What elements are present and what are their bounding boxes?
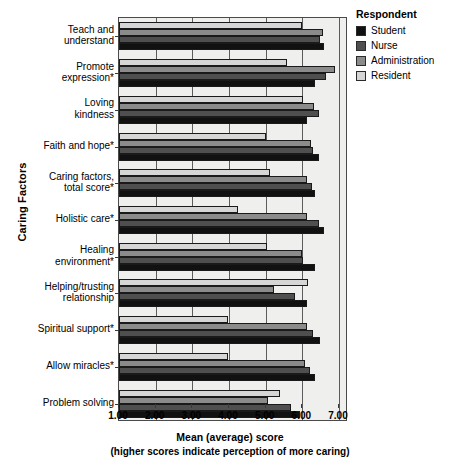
bar-resident [119, 316, 228, 323]
bar-administration [119, 176, 307, 183]
y-axis-category-label-line: Helping/trusting [22, 281, 114, 293]
y-axis-category-label-line: Holistic care* [22, 213, 114, 225]
y-axis-tick [115, 147, 119, 148]
plot-area [118, 17, 347, 421]
y-axis-category-label-line: total score* [22, 182, 114, 194]
bar-student [119, 190, 315, 197]
y-axis-tick [115, 183, 119, 184]
y-axis-category-label: Teach andunderstand [22, 24, 114, 47]
legend-swatch-resident [356, 71, 366, 81]
bar-student [119, 43, 324, 50]
y-axis-category-label: Healingenvironment* [22, 244, 114, 267]
y-axis-tick [115, 73, 119, 74]
x-axis-tick-label: 3.00 [171, 410, 211, 421]
bar-administration [119, 66, 335, 73]
y-axis-tick [115, 220, 119, 221]
y-axis-category-label: Lovingkindness [22, 97, 114, 120]
gridline [339, 18, 340, 420]
y-axis-tick [115, 110, 119, 111]
y-axis-category-label: Caring factors,total score* [22, 171, 114, 194]
y-axis-category-label-line: relationship [22, 292, 114, 304]
y-axis-category-labels: Teach andunderstandPromoteexpression*Lov… [22, 17, 114, 421]
legend-item: Resident [356, 70, 448, 81]
y-axis-tick [115, 36, 119, 37]
x-axis-tick [118, 404, 119, 408]
y-axis-tick [115, 293, 119, 294]
bar-administration [119, 29, 323, 36]
bar-nurse [119, 367, 310, 374]
legend-label: Resident [371, 70, 410, 81]
bar-administration [119, 103, 314, 110]
y-axis-category-label: Holistic care* [22, 213, 114, 225]
bar-nurse [119, 73, 326, 80]
x-axis-tick-label: 7.00 [318, 410, 358, 421]
bar-administration [119, 140, 311, 147]
legend-item: Administration [356, 55, 448, 66]
bar-resident [119, 169, 270, 176]
x-axis-tick [228, 404, 229, 408]
bar-resident [119, 206, 238, 213]
bar-student [119, 337, 320, 344]
legend-items: StudentNurseAdministrationResident [356, 25, 448, 81]
bar-student [119, 117, 307, 124]
bar-nurse [119, 330, 313, 337]
legend-swatch-nurse [356, 41, 366, 51]
bar-nurse [119, 110, 319, 117]
x-axis-tick-label: 6.00 [281, 410, 321, 421]
y-axis-category-label-line: expression* [22, 72, 114, 84]
x-axis-tick-label: 5.00 [245, 410, 285, 421]
y-axis-category-label-line: Caring factors, [22, 171, 114, 183]
bar-nurse [119, 183, 312, 190]
bar-administration [119, 323, 307, 330]
bar-nurse [119, 257, 303, 264]
x-axis-subtitle: (higher scores indicate perception of mo… [40, 446, 420, 457]
bar-resident [119, 133, 266, 140]
bar-resident [119, 59, 287, 66]
y-axis-category-label-line: kindness [22, 109, 114, 121]
bar-resident [119, 353, 228, 360]
bar-administration [119, 250, 302, 257]
y-axis-category-label: Helping/trustingrelationship [22, 281, 114, 304]
x-axis-tick-label: 4.00 [208, 410, 248, 421]
y-axis-category-label-line: Faith and hope* [22, 140, 114, 152]
bar-nurse [119, 293, 295, 300]
bar-student [119, 154, 319, 161]
bar-resident [119, 22, 302, 29]
y-axis-category-label-line: understand [22, 35, 114, 47]
y-axis-category-label-line: Loving [22, 97, 114, 109]
bar-resident [119, 279, 308, 286]
bar-nurse [119, 36, 320, 43]
y-axis-category-label-line: Spiritual support* [22, 323, 114, 335]
bar-administration [119, 397, 268, 404]
y-axis-category-label: Promoteexpression* [22, 61, 114, 84]
bar-student [119, 300, 307, 307]
y-axis-tick [115, 330, 119, 331]
x-axis-title: Mean (average) score [60, 431, 400, 443]
legend-label: Student [371, 25, 405, 36]
bar-nurse [119, 147, 313, 154]
bar-resident [119, 96, 303, 103]
x-axis-tick [301, 404, 302, 408]
legend: Respondent StudentNurseAdministrationRes… [356, 8, 448, 85]
legend-label: Nurse [371, 40, 398, 51]
y-axis-category-label-line: Teach and [22, 24, 114, 36]
bar-student [119, 227, 324, 234]
x-axis-tick [191, 404, 192, 408]
bar-student [119, 374, 315, 381]
x-axis-tick-label: 1.00 [98, 410, 138, 421]
y-axis-tick [115, 367, 119, 368]
legend-label: Administration [371, 55, 434, 66]
legend-swatch-administration [356, 56, 366, 66]
y-axis-category-label-line: Promote [22, 61, 114, 73]
y-axis-category-label-line: Allow miracles* [22, 360, 114, 372]
bar-administration [119, 286, 274, 293]
y-axis-category-label-line: Problem solving [22, 397, 114, 409]
x-axis-tick [338, 404, 339, 408]
bar-administration [119, 360, 305, 367]
bar-administration [119, 213, 307, 220]
legend-item: Student [356, 25, 448, 36]
bar-resident [119, 390, 280, 397]
bar-nurse [119, 220, 319, 227]
x-axis-tick [265, 404, 266, 408]
y-axis-category-label-line: Healing [22, 244, 114, 256]
